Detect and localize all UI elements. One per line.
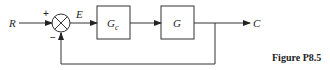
minus-sign: − (50, 32, 56, 43)
plant-label: G (173, 17, 181, 29)
output-label-c: C (253, 17, 261, 29)
controller-block: Gc (97, 6, 130, 39)
summing-junction (52, 14, 70, 32)
figure-caption: Figure P8.5 (272, 52, 321, 63)
controller-label: G (107, 17, 115, 29)
plant-block: G (161, 6, 194, 39)
plus-sign: + (43, 8, 49, 19)
error-label-e: E (75, 8, 83, 20)
svg-text:Gc: Gc (107, 17, 119, 32)
block-diagram: R + − E Gc G C Figure P8.5 (0, 0, 330, 70)
feedback-path (61, 23, 215, 64)
controller-subscript: c (115, 23, 119, 32)
input-label-r: R (8, 17, 16, 29)
